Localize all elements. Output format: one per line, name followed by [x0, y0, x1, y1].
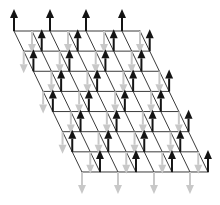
- spin-lattice-figure: [0, 0, 220, 205]
- figure-root: [0, 0, 220, 205]
